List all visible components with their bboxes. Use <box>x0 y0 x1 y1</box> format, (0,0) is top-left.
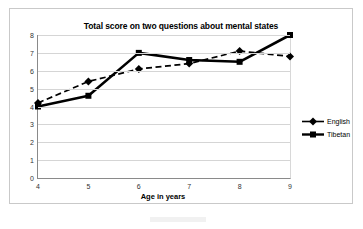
gridline <box>38 107 290 108</box>
gridline <box>38 71 290 72</box>
x-axis-tick-label: 7 <box>187 183 191 190</box>
gridline <box>38 124 290 125</box>
y-axis-tick-label: 0 <box>30 175 34 182</box>
square-marker-icon <box>310 132 316 138</box>
chart-legend: EnglishTibetan <box>302 117 350 139</box>
plot-area: 012345678456789 <box>37 35 291 179</box>
diamond-marker-icon <box>309 118 317 126</box>
x-axis-tick-label: 4 <box>36 183 40 190</box>
legend-label: Tibetan <box>327 131 350 138</box>
y-axis-tick-label: 4 <box>30 103 34 110</box>
legend-swatch <box>302 130 324 139</box>
x-axis-label: Age in years <box>37 192 289 201</box>
y-axis-tick-label: 3 <box>30 121 34 128</box>
gridline <box>38 89 290 90</box>
gridline <box>38 53 290 54</box>
y-axis-tick-label: 1 <box>30 157 34 164</box>
legend-item-tibetan[interactable]: Tibetan <box>302 130 350 139</box>
x-axis-tick-label: 5 <box>86 183 90 190</box>
chart-title: Total score on two questions about menta… <box>10 21 352 31</box>
diamond-marker-icon <box>84 77 92 85</box>
legend-label: English <box>327 118 350 125</box>
y-axis-tick-label: 7 <box>30 49 34 56</box>
gridline <box>38 35 290 36</box>
x-axis-tick-label: 9 <box>288 183 292 190</box>
y-axis-tick-label: 5 <box>30 85 34 92</box>
x-axis-tick-label: 8 <box>238 183 242 190</box>
diamond-marker-icon <box>135 65 143 73</box>
square-marker-icon <box>85 93 91 99</box>
legend-item-english[interactable]: English <box>302 117 350 126</box>
page-artifact <box>150 217 206 222</box>
y-axis-tick-label: 2 <box>30 139 34 146</box>
legend-swatch <box>302 117 324 126</box>
diamond-marker-icon <box>236 47 244 55</box>
x-axis-tick-label: 6 <box>137 183 141 190</box>
y-axis-tick-label: 8 <box>30 32 34 39</box>
square-marker-icon <box>237 59 243 65</box>
gridline <box>38 160 290 161</box>
square-marker-icon <box>186 57 192 63</box>
gridline <box>38 142 290 143</box>
y-axis-tick-label: 6 <box>30 67 34 74</box>
chart-frame: Total score on two questions about menta… <box>9 8 353 204</box>
series-line <box>38 51 290 103</box>
